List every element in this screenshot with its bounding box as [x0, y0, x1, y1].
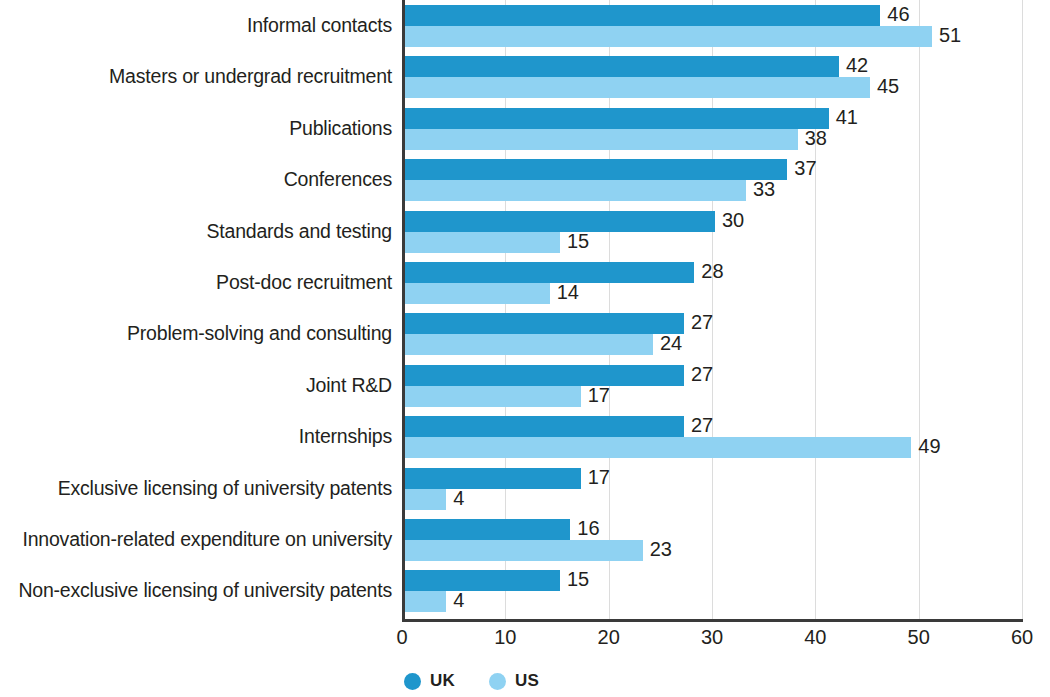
x-tick-label: 40 [804, 624, 826, 650]
bar-value-label: 4 [453, 488, 464, 509]
bar-value-label: 24 [660, 333, 682, 354]
category-label: Post-doc recruitment [0, 272, 392, 293]
bar-value-label: 15 [567, 569, 589, 590]
category-label: Masters or undergrad recruitment [0, 66, 392, 87]
legend-swatch-circle-icon [489, 673, 506, 690]
bar-value-label: 27 [691, 364, 713, 385]
bar-value-label: 42 [846, 55, 868, 76]
x-tick-label: 10 [494, 624, 516, 650]
x-tick-label: 60 [1011, 624, 1033, 650]
x-axis-line [402, 619, 1023, 622]
category-label: Conferences [0, 169, 392, 190]
legend-item[interactable]: US [489, 671, 539, 691]
category-label: Exclusive licensing of university patent… [0, 478, 392, 499]
category-label: Standards and testing [0, 221, 392, 242]
category-label: Internships [0, 426, 392, 447]
bar-us [405, 232, 560, 253]
bar-us [405, 283, 550, 304]
bar-value-label: 46 [887, 4, 909, 25]
bar-uk [405, 5, 880, 26]
bar-uk [405, 262, 694, 283]
category-label: Problem-solving and consulting [0, 323, 392, 344]
bar-value-label: 15 [567, 231, 589, 252]
plot-area: 4651424541383733301528142724271727491741… [402, 0, 1050, 620]
bar-uk [405, 468, 581, 489]
bar-us [405, 591, 446, 612]
bar-value-label: 51 [939, 25, 961, 46]
bar-value-label: 28 [701, 261, 723, 282]
x-axis-tick-labels: 0102030405060 [0, 624, 1050, 652]
chart-legend: UKUS [404, 667, 539, 695]
bar-value-label: 16 [577, 518, 599, 539]
category-axis-labels: Informal contactsMasters or undergrad re… [0, 0, 392, 620]
bar-us [405, 489, 446, 510]
legend-label: US [515, 671, 539, 691]
bar-chart: Informal contactsMasters or undergrad re… [0, 0, 1050, 697]
bar-value-label: 37 [794, 158, 816, 179]
x-tick-label: 20 [598, 624, 620, 650]
bar-value-label: 49 [918, 436, 940, 457]
bar-value-label: 33 [753, 179, 775, 200]
bar-value-label: 17 [588, 385, 610, 406]
bar-uk [405, 519, 570, 540]
gridline [1022, 0, 1023, 620]
bar-value-label: 23 [650, 539, 672, 560]
category-label: Innovation-related expenditure on univer… [0, 529, 392, 550]
bar-us [405, 540, 643, 561]
category-label: Non-exclusive licensing of university pa… [0, 580, 392, 601]
bar-uk [405, 211, 715, 232]
x-tick-label: 50 [908, 624, 930, 650]
bar-value-label: 17 [588, 467, 610, 488]
legend-item[interactable]: UK [404, 671, 455, 691]
legend-swatch-circle-icon [404, 673, 421, 690]
bar-value-label: 4 [453, 590, 464, 611]
bar-us [405, 334, 653, 355]
bar-value-label: 41 [836, 107, 858, 128]
bar-us [405, 77, 870, 98]
bar-uk [405, 108, 829, 129]
bar-value-label: 14 [557, 282, 579, 303]
bar-value-label: 45 [877, 76, 899, 97]
bar-value-label: 27 [691, 415, 713, 436]
bar-uk [405, 313, 684, 334]
bar-us [405, 386, 581, 407]
bar-uk [405, 56, 839, 77]
bar-value-label: 30 [722, 210, 744, 231]
bar-uk [405, 416, 684, 437]
gridline [919, 0, 920, 620]
x-tick-label: 30 [701, 624, 723, 650]
category-label: Informal contacts [0, 15, 392, 36]
legend-label: UK [430, 671, 455, 691]
bar-us [405, 129, 798, 150]
bar-us [405, 26, 932, 47]
bar-uk [405, 159, 787, 180]
bar-us [405, 437, 911, 458]
bar-us [405, 180, 746, 201]
bar-value-label: 38 [805, 128, 827, 149]
category-label: Publications [0, 118, 392, 139]
category-label: Joint R&D [0, 375, 392, 396]
x-tick-label: 0 [396, 624, 407, 650]
bar-value-label: 27 [691, 312, 713, 333]
bar-uk [405, 570, 560, 591]
bar-uk [405, 365, 684, 386]
